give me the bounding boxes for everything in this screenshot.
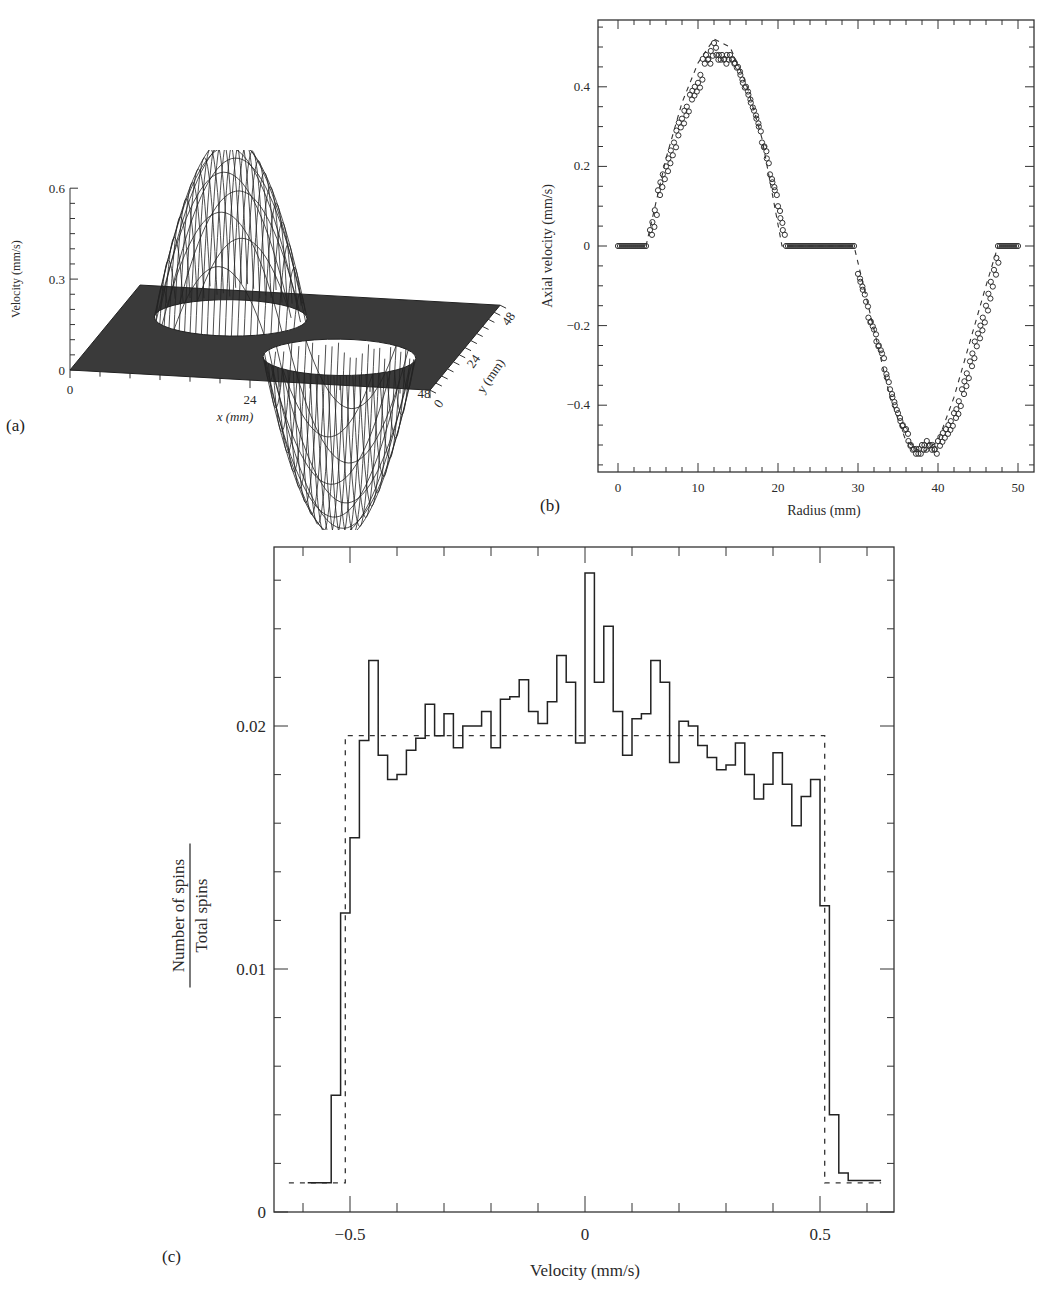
y-tick-label: 0 bbox=[584, 238, 591, 253]
plot-area: 01020304050−0.4−0.200.20.4Radius (mm)Axi… bbox=[540, 20, 1034, 519]
svg-text:Number of spins: Number of spins bbox=[169, 859, 188, 972]
plot-area: −0.500.500.010.02Velocity (mm/s)Number o… bbox=[169, 547, 894, 1280]
panel-label-c: (c) bbox=[162, 1247, 181, 1267]
y-tick-label: −0.2 bbox=[566, 318, 590, 333]
panel-b-scatter-plot: 01020304050−0.4−0.200.20.4Radius (mm)Axi… bbox=[530, 0, 1046, 520]
y-tick-label: 48 bbox=[499, 309, 519, 328]
y-tick-label: 24 bbox=[463, 351, 483, 371]
histogram-steps bbox=[308, 573, 881, 1183]
z-tick-label: 0.6 bbox=[49, 181, 66, 196]
surface-plot: 00.30.6Velocity (mm/s)02448x (mm)02448y … bbox=[9, 150, 518, 530]
plot-frame bbox=[274, 547, 894, 1212]
y-tick-label: 0 bbox=[258, 1203, 267, 1222]
y-tick-label: 0.4 bbox=[574, 79, 591, 94]
plot-frame bbox=[598, 20, 1034, 472]
x-tick-label: 0 bbox=[67, 382, 74, 397]
theory-dashed-line bbox=[646, 39, 998, 453]
z-tick-label: 0 bbox=[59, 363, 66, 378]
x-tick-label: 0 bbox=[581, 1225, 590, 1244]
panel-c-histogram: −0.500.500.010.02Velocity (mm/s)Number o… bbox=[150, 540, 910, 1289]
x-axis-label: x (mm) bbox=[216, 409, 253, 424]
surface-mesh bbox=[70, 150, 500, 530]
x-tick-label: 0 bbox=[615, 480, 622, 495]
y-tick-label: 0.01 bbox=[236, 960, 266, 979]
panel-a-surface-plot: 00.30.6Velocity (mm/s)02448x (mm)02448y … bbox=[0, 150, 520, 530]
x-tick-label: 40 bbox=[932, 480, 945, 495]
scatter-plot-canvas: 01020304050−0.4−0.200.20.4Radius (mm)Axi… bbox=[530, 0, 1046, 520]
z-axis-label: Velocity (mm/s) bbox=[9, 240, 23, 318]
z-tick-label: 0.3 bbox=[49, 272, 65, 287]
x-axis-label: Velocity (mm/s) bbox=[530, 1261, 640, 1280]
x-tick-label: 10 bbox=[692, 480, 705, 495]
surface-plot-canvas: 00.30.6Velocity (mm/s)02448x (mm)02448y … bbox=[0, 150, 520, 530]
measured-points bbox=[615, 40, 1020, 456]
y-tick-label: 0.02 bbox=[236, 717, 266, 736]
x-tick-label: 30 bbox=[852, 480, 865, 495]
y-axis-label: Number of spinsTotal spins bbox=[169, 844, 211, 988]
y-tick-label: 0.2 bbox=[574, 158, 590, 173]
histogram-canvas: −0.500.500.010.02Velocity (mm/s)Number o… bbox=[150, 540, 910, 1289]
x-tick-label: 50 bbox=[1012, 480, 1025, 495]
svg-text:Total spins: Total spins bbox=[192, 879, 211, 953]
x-tick-label: −0.5 bbox=[335, 1225, 366, 1244]
panel-label-a: (a) bbox=[6, 416, 25, 436]
y-tick-label: −0.4 bbox=[566, 397, 590, 412]
panel-label-b: (b) bbox=[540, 496, 560, 516]
x-tick-label: 0.5 bbox=[809, 1225, 830, 1244]
x-axis-label: Radius (mm) bbox=[787, 503, 861, 519]
y-axis-label: Axial velocity (mm/s) bbox=[540, 184, 556, 308]
x-tick-label: 20 bbox=[772, 480, 785, 495]
y-tick-label: 0 bbox=[430, 397, 446, 411]
x-tick-label: 24 bbox=[244, 392, 258, 407]
